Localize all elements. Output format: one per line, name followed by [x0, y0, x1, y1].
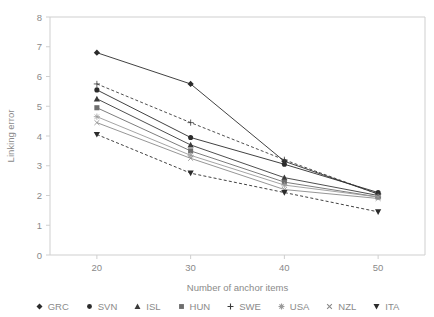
- marker-triangle-up-icon: [94, 96, 100, 102]
- marker-triangle-down-icon: [375, 209, 381, 215]
- legend-item-hun[interactable]: HUN: [169, 302, 219, 312]
- legend-label: GRC: [48, 302, 69, 312]
- marker-plus-icon: [94, 81, 100, 87]
- x-tick-label-20: 20: [92, 262, 103, 273]
- legend-item-svn[interactable]: SVN: [77, 302, 126, 312]
- legend-label: USA: [290, 302, 310, 312]
- marker-circle-icon: [94, 87, 99, 92]
- legend-item-usa[interactable]: USA: [269, 302, 318, 312]
- legend-item-swe[interactable]: SWE: [218, 302, 269, 312]
- y-tick-label-6: 6: [37, 71, 42, 82]
- y-tick-label-2: 2: [37, 190, 42, 201]
- marker-triangle-up-icon: [281, 175, 287, 181]
- x-axis-title: Number of anchor items: [187, 282, 289, 293]
- legend-label: SWE: [239, 302, 261, 312]
- legend-label: HUN: [190, 302, 211, 312]
- marker-circle-icon: [188, 135, 193, 140]
- cropped-caption-text: · · · · · · · · · · · · · ·: [6, 0, 78, 4]
- series-hun: [94, 105, 380, 199]
- y-tick-label-0: 0: [37, 250, 42, 261]
- marker-cross-icon: [94, 120, 99, 125]
- marker-square-icon: [177, 302, 186, 311]
- legend-item-ita[interactable]: ITA: [364, 302, 407, 312]
- cropped-caption-strip: · · · · · · · · · · · · · ·: [0, 0, 434, 9]
- y-tick-label-1: 1: [37, 220, 42, 231]
- marker-plus-icon: [188, 120, 194, 126]
- y-tick-label-3: 3: [37, 160, 42, 171]
- x-tick-label-50: 50: [373, 262, 384, 273]
- marker-asterisk-icon: [94, 114, 100, 120]
- x-tick-label-40: 40: [279, 262, 290, 273]
- marker-circle-icon: [85, 302, 94, 311]
- linking-error-chart: 01234567820304050Number of anchor itemsL…: [0, 9, 434, 317]
- legend-item-nzl[interactable]: NZL: [317, 302, 364, 312]
- series-line-usa: [97, 117, 378, 197]
- legend-label: ISL: [146, 302, 160, 312]
- marker-diamond-icon: [35, 302, 44, 311]
- legend-label: SVN: [98, 302, 118, 312]
- figure-page: · · · · · · · · · · · · · · 012345678203…: [0, 0, 434, 317]
- legend-label: NZL: [338, 302, 356, 312]
- series-grc: [94, 50, 381, 198]
- marker-plus-icon: [226, 302, 235, 311]
- y-tick-label-8: 8: [37, 12, 42, 23]
- marker-triangle-down-icon: [372, 302, 381, 311]
- series-line-ita: [97, 135, 378, 212]
- series-line-hun: [97, 108, 378, 197]
- series-nzl: [94, 120, 380, 201]
- marker-triangle-up-icon: [188, 142, 194, 148]
- series-ita: [94, 132, 381, 215]
- x-tick-label-30: 30: [185, 262, 196, 273]
- series-isl: [94, 96, 381, 198]
- chart-legend: GRCSVNISLHUNSWEUSANZLITA: [0, 296, 434, 317]
- y-tick-label-4: 4: [37, 131, 42, 142]
- series-line-isl: [97, 99, 378, 196]
- marker-asterisk-icon: [277, 302, 286, 311]
- y-tick-label-7: 7: [37, 41, 42, 52]
- marker-square-icon: [94, 105, 99, 110]
- marker-cross-icon: [325, 302, 334, 311]
- marker-triangle-down-icon: [94, 132, 100, 138]
- y-axis-title: Linking error: [5, 110, 16, 163]
- marker-triangle-up-icon: [133, 302, 142, 311]
- marker-diamond-icon: [94, 50, 100, 56]
- legend-item-grc[interactable]: GRC: [27, 302, 77, 312]
- legend-label: ITA: [385, 302, 399, 312]
- legend-item-isl[interactable]: ISL: [125, 302, 168, 312]
- y-tick-label-5: 5: [37, 101, 42, 112]
- series-line-grc: [97, 53, 378, 194]
- plot-svg: 01234567820304050Number of anchor itemsL…: [0, 9, 434, 296]
- marker-triangle-down-icon: [188, 171, 194, 177]
